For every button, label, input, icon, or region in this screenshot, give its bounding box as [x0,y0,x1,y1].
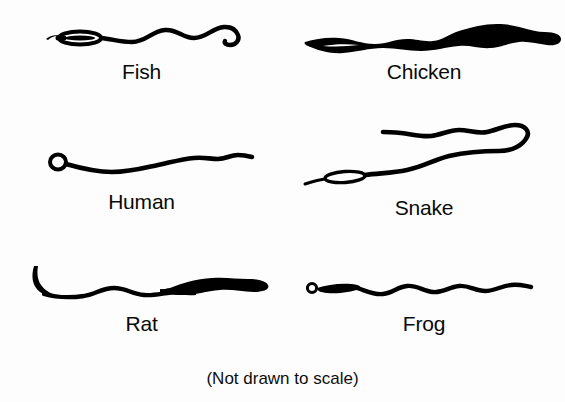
specimen-label-fish: Fish [0,60,283,84]
sperm-morphology-figure: Fish Chicken Human Snake [0,0,565,402]
specimen-cell-rat: Rat [0,258,283,348]
specimen-cell-frog: Frog [283,258,565,348]
specimen-label-snake: Snake [283,196,565,220]
specimen-label-chicken: Chicken [283,60,565,84]
specimen-cell-human: Human [0,140,283,230]
specimen-label-rat: Rat [0,312,283,336]
specimen-cell-chicken: Chicken [283,10,565,90]
specimen-label-frog: Frog [283,312,565,336]
sperm-cell-snake-icon [283,118,565,202]
specimen-cell-snake: Snake [283,118,565,230]
specimen-cell-fish: Fish [0,10,283,90]
figure-caption: (Not drawn to scale) [0,369,565,389]
specimen-label-human: Human [0,190,283,214]
